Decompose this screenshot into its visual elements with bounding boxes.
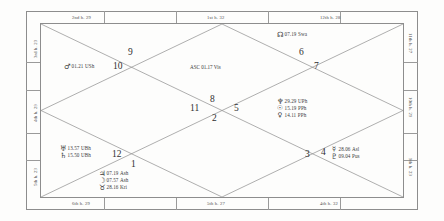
planet-group-house-7: ☊ 07.19 Swa	[277, 31, 307, 38]
venus-nakshatra: PPh	[298, 112, 307, 119]
chart-root: 2nd h. 29 1st h. 32 12th h. 28 6th h. 29…	[0, 0, 444, 221]
pluto-degree: 09.04	[339, 153, 351, 160]
neptune-nakshatra: UPh	[298, 98, 307, 105]
rahu-degree: 07.19	[285, 31, 297, 38]
mercury-degree: 28.06	[339, 146, 351, 153]
planet-row: ♀ 14.11 PPh	[277, 112, 307, 119]
house-number-3: 3	[305, 150, 310, 160]
uranus-degree: 13.57	[68, 145, 80, 152]
ring-tick-bottom-3	[268, 198, 269, 210]
ring-tick-right-1	[404, 62, 418, 63]
ketu-degree: 28.16	[107, 184, 119, 191]
saturn-icon: ♄	[60, 152, 66, 159]
ring-tick-left-3	[26, 133, 40, 134]
ring-tick-left-1	[26, 62, 40, 63]
ring-tick-left-2	[26, 90, 40, 91]
uranus-nakshatra: UBh	[81, 145, 91, 152]
sun-degree: 15.19	[285, 105, 297, 112]
house-number-9: 9	[128, 48, 133, 58]
planet-row: ♇ 09.04 Pus	[331, 153, 360, 160]
house-number-4: 4	[321, 148, 326, 158]
planet-group-house-6: ♆ 29.29 UPh ☉ 15.19 PPh ♀ 14.11 PPh	[277, 98, 307, 119]
house-number-5: 5	[234, 104, 239, 114]
ascendant-abbr: ASC	[190, 64, 200, 70]
ring-tick-top-3	[268, 11, 269, 23]
planet-row: ♄ 15.50 UBh	[60, 152, 91, 159]
border-label-top-2: 1st h. 32	[207, 15, 225, 20]
planet-group-house-1: ♃ 07.19 Ash ☽ 07.57 Ash ♉ 28.16 Kri	[99, 170, 128, 191]
ascendant-nakshatra: Vis	[214, 64, 221, 70]
border-label-right-2: 10th h. 29	[408, 97, 413, 118]
ring-tick-right-3	[404, 133, 418, 134]
chart-diagram-lines	[0, 0, 444, 221]
ring-tick-bottom-4	[340, 198, 341, 210]
planet-group-house-10: ♂ 01.21 USh	[64, 63, 94, 70]
jupiter-degree: 07.19	[107, 170, 119, 177]
house-number-1: 1	[131, 160, 136, 170]
house-number-8: 8	[210, 95, 215, 105]
ring-tick-top-2	[176, 11, 177, 23]
rahu-nakshatra: Swa	[298, 31, 307, 38]
border-label-right-1: 11th h. 27	[408, 33, 413, 53]
saturn-nakshatra: UBh	[81, 152, 91, 159]
venus-icon: ♀	[277, 112, 283, 119]
saturn-degree: 15.50	[68, 152, 80, 159]
mars-nakshatra: USh	[85, 63, 94, 70]
ring-tick-top-1	[104, 11, 105, 23]
planet-group-house-12: ♅ 13.57 UBh ♄ 15.50 UBh	[60, 145, 91, 159]
venus-degree: 14.11	[285, 112, 297, 119]
mars-icon: ♂	[64, 63, 70, 70]
ring-tick-left-4	[26, 160, 40, 161]
planet-row: ♉ 28.16 Kri	[99, 184, 128, 191]
ring-tick-bottom-2	[176, 198, 177, 210]
ketu-nakshatra: Kri	[120, 184, 127, 191]
mercury-nakshatra: Asl	[352, 146, 359, 153]
border-label-top-1: 2nd h. 29	[72, 15, 91, 20]
border-label-top-3: 12th h. 28	[320, 15, 341, 20]
planet-row: ☊ 07.19 Swa	[277, 31, 307, 38]
moon-nakshatra: Ash	[120, 177, 129, 184]
ascendant-degree: 01.17	[201, 64, 212, 70]
house-number-6: 6	[299, 48, 304, 58]
ring-tick-bottom-1	[104, 198, 105, 210]
border-label-left-3: 5th h. 23	[33, 168, 38, 186]
sun-nakshatra: PPh	[298, 105, 307, 112]
planet-group-house-4: ☿ 28.06 Asl ♇ 09.04 Pus	[331, 146, 360, 160]
house-number-11: 11	[190, 104, 199, 114]
ring-tick-right-2	[404, 90, 418, 91]
border-label-left-1: 3rd h. 23	[33, 40, 38, 58]
house-number-2: 2	[212, 114, 217, 124]
neptune-degree: 29.29	[285, 98, 297, 105]
planet-row: ♂ 01.21 USh	[64, 63, 94, 70]
house-number-12: 12	[112, 150, 122, 160]
border-label-left-2: 4th h. 29	[33, 104, 38, 122]
ascendant-label: ASC 01.17 Vis	[190, 64, 221, 70]
border-label-bottom-2: 5th h. 27	[207, 201, 225, 206]
jupiter-nakshatra: Ash	[120, 170, 129, 177]
border-label-bottom-1: 6th h. 29	[72, 201, 90, 206]
pluto-nakshatra: Pus	[352, 153, 360, 160]
house-number-7: 7	[314, 62, 319, 72]
moon-degree: 07.57	[107, 177, 119, 184]
border-label-right-3: 9th h. 23	[408, 158, 413, 176]
border-label-bottom-3: 4th h. 32	[320, 201, 338, 206]
house-number-10: 10	[113, 62, 123, 72]
rahu-icon: ☊	[277, 31, 283, 38]
ketu-icon: ♉	[99, 184, 105, 191]
mars-degree: 01.21	[72, 63, 84, 70]
pluto-icon: ♇	[331, 153, 337, 160]
